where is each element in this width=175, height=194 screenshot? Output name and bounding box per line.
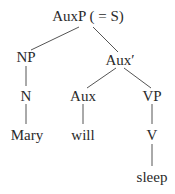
- node-aux-bar: Aux′: [105, 52, 134, 68]
- edge-auxbar-vp: [124, 68, 151, 88]
- edge-auxp-np: [31, 27, 79, 50]
- leaf-will: will: [71, 127, 94, 143]
- node-n: N: [21, 88, 32, 104]
- leaf-mary: Mary: [11, 127, 44, 143]
- node-aux: Aux: [70, 88, 96, 104]
- edge-auxp-auxbar: [93, 27, 118, 52]
- node-vp: VP: [142, 88, 161, 104]
- edge-auxbar-aux: [87, 68, 116, 88]
- node-np: NP: [16, 49, 35, 65]
- syntax-tree: AuxP ( = S) NP Aux′ N Aux VP Mary will V…: [0, 0, 175, 194]
- leaf-sleep: sleep: [137, 169, 168, 185]
- node-auxp: AuxP ( = S): [52, 8, 124, 25]
- node-v: V: [147, 127, 158, 143]
